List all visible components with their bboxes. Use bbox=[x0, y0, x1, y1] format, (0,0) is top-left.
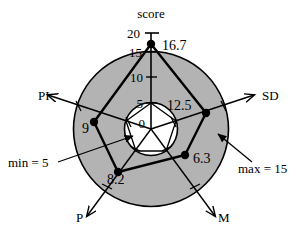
tick-label-5: 5 bbox=[137, 96, 144, 111]
axis-title-score: score bbox=[137, 6, 165, 21]
axis-label-sd: SD bbox=[262, 88, 279, 103]
min-annotation-text: min = 5 bbox=[8, 155, 49, 170]
data-point-score[interactable] bbox=[147, 40, 155, 48]
data-point-sd[interactable] bbox=[202, 109, 210, 117]
axis-label-pi: PI bbox=[38, 88, 50, 103]
value-label-m: 6.3 bbox=[193, 151, 211, 166]
data-point-m[interactable] bbox=[181, 151, 189, 159]
axis-label-m: M bbox=[218, 210, 230, 225]
value-label-pi: 9 bbox=[82, 121, 89, 136]
tick-label-15: 15 bbox=[129, 45, 142, 60]
axis-label-p: P bbox=[76, 210, 83, 225]
value-label-p: 8.2 bbox=[107, 172, 125, 187]
data-point-pi[interactable] bbox=[90, 118, 98, 126]
value-label-sd: 12.5 bbox=[167, 98, 192, 113]
radar-chart-svg: score 20 15 10 5 0 16.7 12.5 6.3 8.2 9 S… bbox=[0, 0, 302, 229]
tick-label-0: 0 bbox=[139, 116, 146, 131]
tick-label-10: 10 bbox=[130, 70, 143, 85]
tick-label-20: 20 bbox=[127, 26, 140, 41]
radar-chart-figure: score 20 15 10 5 0 16.7 12.5 6.3 8.2 9 S… bbox=[0, 0, 302, 229]
value-label-score: 16.7 bbox=[162, 38, 187, 53]
max-annotation-text: max = 15 bbox=[238, 161, 287, 176]
